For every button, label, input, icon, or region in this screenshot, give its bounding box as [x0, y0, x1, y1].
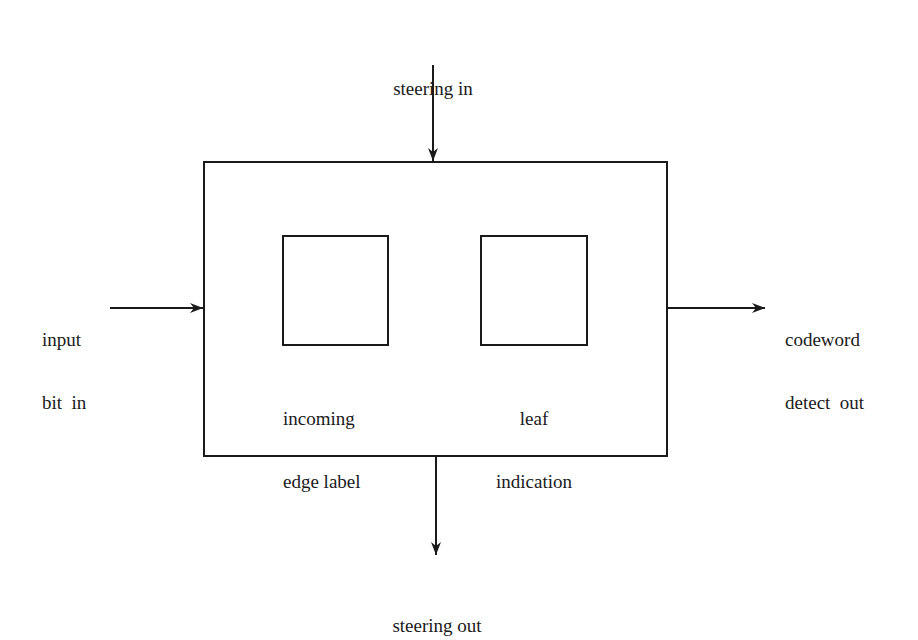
- main-block: [204, 162, 667, 456]
- input-bit-in-line-1: input: [42, 329, 112, 350]
- incoming-edge-label-caption: incoming edge label: [283, 366, 403, 513]
- incoming-edge-label-line-2: edge label: [283, 471, 403, 492]
- steering-in-label: steering in: [373, 36, 493, 120]
- incoming-edge-label-line-1: incoming: [283, 408, 403, 429]
- input-bit-in-line-2: bit in: [42, 392, 112, 413]
- codeword-detect-out-label: codeword detect out: [785, 287, 915, 434]
- leaf-indication-line-1: leaf: [474, 408, 594, 429]
- incoming-edge-label-block: [283, 236, 388, 345]
- leaf-indication-block: [481, 236, 587, 345]
- codeword-detect-out-line-1: codeword: [785, 329, 915, 350]
- steering-out-label: steering out: [375, 573, 499, 640]
- leaf-indication-caption: leaf indication: [474, 366, 594, 513]
- steering-out-text: steering out: [375, 615, 499, 636]
- steering-in-text: steering in: [373, 78, 493, 99]
- input-bit-in-label: input bit in: [42, 287, 112, 434]
- codeword-detect-out-line-2: detect out: [785, 392, 915, 413]
- leaf-indication-line-2: indication: [474, 471, 594, 492]
